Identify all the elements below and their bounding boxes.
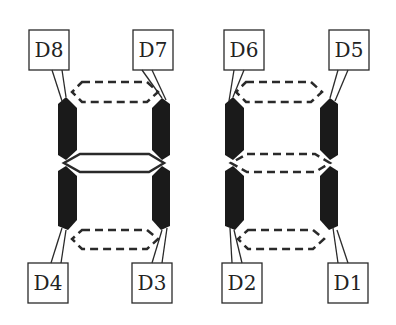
right-top-segment [236, 82, 322, 102]
label-d5: D5 [335, 38, 364, 62]
label-d8: D8 [35, 38, 64, 62]
right-upper-right-segment [320, 98, 338, 160]
left-bottom-segment [72, 230, 158, 249]
left-digit [58, 82, 170, 249]
left-upper-left-segment [58, 97, 77, 160]
label-d6: D6 [230, 38, 259, 62]
left-upper-right-segment [152, 98, 170, 160]
left-lower-left-segment [58, 166, 77, 230]
label-d1: D1 [334, 271, 363, 295]
label-d2: D2 [228, 271, 257, 295]
left-top-segment [72, 82, 158, 102]
label-d4: D4 [34, 271, 63, 295]
right-middle-segment [231, 154, 330, 172]
label-d7: D7 [139, 38, 168, 62]
right-lower-left-segment [225, 166, 244, 230]
seven-segment-diagram: D8 D7 D6 D5 D4 D3 D2 D1 [0, 0, 396, 325]
right-lower-right-segment [320, 166, 338, 230]
label-d3: D3 [138, 271, 167, 295]
right-digit [225, 82, 338, 249]
left-lower-right-segment [152, 166, 170, 230]
right-upper-left-segment [225, 97, 244, 160]
right-bottom-segment [238, 230, 324, 249]
left-middle-segment [64, 154, 164, 172]
